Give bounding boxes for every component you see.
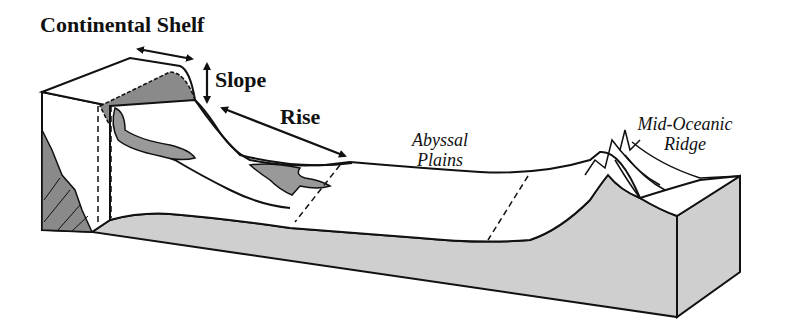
label-abyssal-line1: Abyssal (400, 130, 480, 150)
label-continental-shelf: Continental Shelf (40, 12, 204, 38)
label-abyssal-plains: Abyssal Plains (400, 130, 480, 170)
label-ridge-line2: Ridge (620, 134, 750, 154)
label-abyssal-line2: Plains (400, 150, 480, 170)
shelf-arrow (138, 49, 192, 59)
diagram-drawing (0, 0, 789, 334)
label-slope: Slope (215, 67, 266, 93)
label-mid-oceanic-ridge: Mid-Oceanic Ridge (620, 114, 750, 154)
label-rise: Rise (280, 104, 320, 130)
label-ridge-line1: Mid-Oceanic (620, 114, 750, 134)
